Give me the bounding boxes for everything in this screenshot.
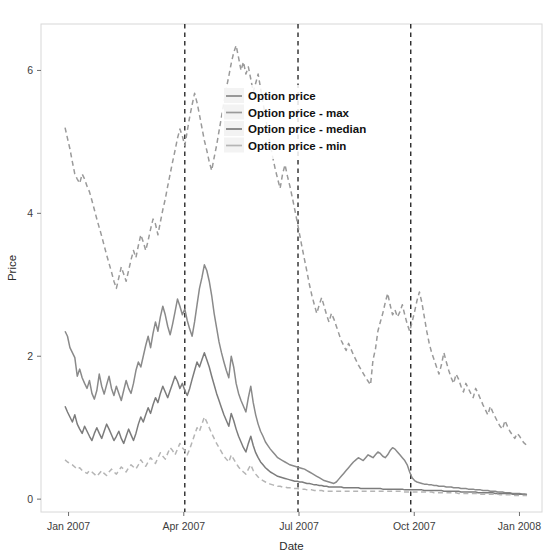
x-axis-title: Date [279, 540, 303, 552]
series-line [65, 353, 527, 495]
chart-container: 0246Jan 2007Apr 2007Jul 2007Oct 2007Jan … [0, 0, 550, 559]
price-line-chart: 0246Jan 2007Apr 2007Jul 2007Oct 2007Jan … [0, 0, 550, 559]
x-tick-label: Jan 2008 [498, 520, 541, 532]
series-line [65, 417, 527, 496]
legend-label: Option price [248, 90, 316, 102]
y-tick-label: 4 [27, 207, 33, 219]
y-tick-label: 6 [27, 64, 33, 76]
legend-label: Option price - median [248, 123, 366, 135]
y-tick-label: 0 [27, 493, 33, 505]
y-tick-label: 2 [27, 350, 33, 362]
x-tick-label: Oct 2007 [393, 520, 436, 532]
x-tick-label: Jan 2007 [47, 520, 90, 532]
y-axis-title: Price [6, 255, 18, 281]
series-line [65, 265, 527, 494]
legend-label: Option price - min [248, 140, 346, 152]
x-tick-label: Apr 2007 [162, 520, 205, 532]
x-tick-label: Jul 2007 [279, 520, 319, 532]
legend-label: Option price - max [248, 107, 350, 119]
